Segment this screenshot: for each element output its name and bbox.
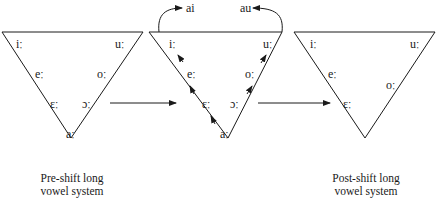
vowel-e: eː	[328, 68, 337, 80]
vowel-oh: ɔː	[82, 98, 91, 110]
vowel-i: iː	[169, 38, 176, 50]
caption-line: vowel system	[12, 185, 132, 198]
caption-pre-shift: Pre-shift long vowel system	[12, 172, 132, 198]
vowel-oh: ɔː	[230, 98, 239, 110]
vowel-e: eː	[187, 68, 196, 80]
vowel-a: aː	[66, 128, 75, 140]
diphthong-au: au	[240, 2, 251, 14]
vowel-u: uː	[410, 38, 419, 50]
caption-line: Pre-shift long	[12, 172, 132, 185]
vowel-eh: ɛː	[202, 98, 210, 110]
arrow-o-to-u	[261, 55, 266, 63]
arrow-u-to-au	[253, 8, 282, 32]
vowel-u: uː	[115, 38, 124, 50]
arrow-e-to-i	[178, 55, 183, 62]
vowel-shift-diagram	[0, 0, 438, 200]
arrow-eh-to-e	[190, 86, 194, 94]
vowel-i: iː	[310, 38, 317, 50]
diphthong-ai: ai	[186, 2, 195, 14]
vowel-o: oː	[97, 68, 106, 80]
vowel-a: aː	[220, 128, 229, 140]
vowel-i: iː	[16, 38, 23, 50]
vowel-o: oː	[245, 68, 254, 80]
vowel-eh: ɛː	[50, 98, 58, 110]
arrow-i-to-ai	[159, 8, 182, 32]
vowel-eh: ɛː	[343, 98, 351, 110]
vowel-o: oː	[386, 79, 395, 91]
vowel-u: uː	[263, 38, 272, 50]
caption-line: Post-shift long	[306, 172, 426, 185]
caption-post-shift: Post-shift long vowel system	[306, 172, 426, 198]
caption-line: vowel system	[306, 185, 426, 198]
vowel-e: eː	[35, 68, 44, 80]
